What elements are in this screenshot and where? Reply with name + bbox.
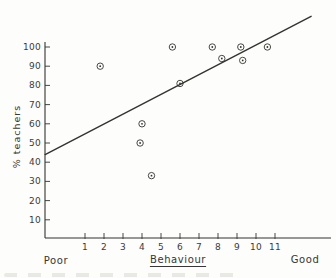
data-point-dot <box>221 58 223 60</box>
x-tick-label: 5 <box>158 242 164 252</box>
x-tick-label: 11 <box>269 242 281 252</box>
x-axis-max-annotation: Good <box>275 254 335 265</box>
x-tick-label: 2 <box>101 242 107 252</box>
y-axis-title: % teachers <box>11 77 24 197</box>
x-tick-label: 9 <box>234 242 240 252</box>
data-point-dot <box>240 46 242 48</box>
x-tick-label: 1 <box>82 242 88 252</box>
data-point-dot <box>141 123 143 125</box>
x-tick-label: 8 <box>215 242 221 252</box>
scatter-plot-canvas: 1020304050607080901001234567891011 <box>0 0 336 278</box>
data-point-dot <box>242 60 244 62</box>
y-tick-label: 90 <box>29 61 41 71</box>
x-tick-label: 7 <box>196 242 202 252</box>
y-tick-label: 50 <box>29 138 41 148</box>
y-tick-label: 40 <box>29 157 41 167</box>
x-tick-label: 4 <box>139 242 145 252</box>
x-tick-label: 3 <box>120 242 126 252</box>
data-point-dot <box>211 46 213 48</box>
y-tick-label: 70 <box>29 100 41 110</box>
y-tick-label: 10 <box>29 215 41 225</box>
data-point-dot <box>179 83 181 85</box>
data-point-dot <box>99 65 101 67</box>
data-point-dot <box>139 142 141 144</box>
y-tick-label: 100 <box>23 42 41 52</box>
data-point-dot <box>151 175 153 177</box>
x-axis-title: Behaviour <box>128 254 228 265</box>
y-tick-label: 20 <box>29 196 41 206</box>
x-axis-min-annotation: Poor <box>26 255 86 266</box>
y-tick-label: 60 <box>29 119 41 129</box>
y-tick-label: 80 <box>29 80 41 90</box>
x-tick-label: 10 <box>250 242 262 252</box>
scatter-plot-figure: 1020304050607080901001234567891011 % tea… <box>0 0 336 278</box>
trend-line <box>45 16 311 154</box>
cropped-caption-artifact <box>4 273 242 277</box>
data-point-dot <box>172 46 174 48</box>
data-point-dot <box>267 46 269 48</box>
x-tick-label: 6 <box>177 242 183 252</box>
y-tick-label: 30 <box>29 176 41 186</box>
